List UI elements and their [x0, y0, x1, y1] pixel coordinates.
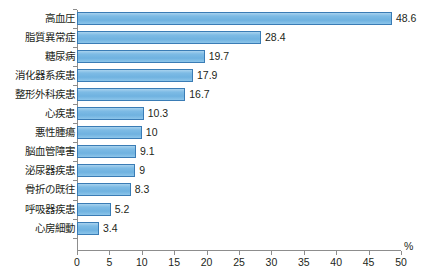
- bar-row: 呼吸器疾患5.2: [0, 200, 428, 219]
- y-axis-tick: [73, 66, 77, 67]
- bar-container: [77, 88, 185, 101]
- category-label: 整形外科疾患: [15, 85, 75, 104]
- y-axis-tick: [73, 238, 77, 239]
- category-label: 高血圧: [45, 9, 75, 28]
- bar-container: [77, 12, 392, 25]
- bar-value-label: 9: [135, 164, 145, 177]
- category-label: 心房細動: [35, 219, 75, 238]
- bar-row: 高血圧48.6: [0, 9, 428, 28]
- bar: [77, 203, 111, 216]
- y-axis-tick: [73, 200, 77, 201]
- x-axis-tick-label: 40: [330, 256, 342, 268]
- bar: [77, 50, 205, 63]
- bar-value-label: 10: [142, 126, 158, 139]
- bar-container: [77, 203, 111, 216]
- x-axis-tick: [369, 251, 370, 255]
- bar-container: [77, 164, 135, 177]
- x-axis-unit-label: %: [404, 240, 413, 252]
- bar-row: 泌尿器疾患9: [0, 161, 428, 180]
- x-axis-tick-label: 10: [136, 256, 148, 268]
- category-label: 消化器系疾患: [15, 66, 75, 85]
- horizontal-bar-chart: 高血圧48.6脂質異常症28.4糖尿病19.7消化器系疾患17.9整形外科疾患1…: [0, 0, 428, 277]
- bar-row: 整形外科疾患16.7: [0, 85, 428, 104]
- bar-row: 消化器系疾患17.9: [0, 66, 428, 85]
- x-axis-tick-label: 15: [168, 256, 180, 268]
- bar-value-label: 28.4: [261, 31, 285, 44]
- bar: [77, 107, 144, 120]
- bar-value-label: 5.2: [111, 203, 130, 216]
- y-axis-tick: [73, 104, 77, 105]
- bar-row: 脂質異常症28.4: [0, 28, 428, 47]
- category-label: 骨折の既往: [25, 180, 75, 199]
- category-label: 糖尿病: [45, 47, 75, 66]
- bar-value-label: 10.3: [144, 107, 168, 120]
- bar-container: [77, 126, 142, 139]
- x-axis-tick: [401, 251, 402, 255]
- category-label: 泌尿器疾患: [25, 161, 75, 180]
- bar: [77, 164, 135, 177]
- bar-value-label: 17.9: [193, 69, 217, 82]
- x-axis-tick: [271, 251, 272, 255]
- x-axis-tick: [109, 251, 110, 255]
- bar-container: [77, 69, 193, 82]
- x-axis-tick-label: 50: [395, 256, 407, 268]
- x-axis-tick-label: 25: [233, 256, 245, 268]
- x-axis-tick-label: 20: [201, 256, 213, 268]
- x-axis-tick-label: 30: [266, 256, 278, 268]
- category-label: 悪性腫瘍: [35, 123, 75, 142]
- x-axis-tick-label: 5: [106, 256, 112, 268]
- y-axis-tick: [73, 123, 77, 124]
- bar-value-label: 9.1: [136, 145, 155, 158]
- y-axis-tick: [73, 28, 77, 29]
- bar: [77, 222, 99, 235]
- x-axis-tick: [142, 251, 143, 255]
- category-label: 脳血管障害: [25, 142, 75, 161]
- category-label: 呼吸器疾患: [25, 200, 75, 219]
- bar-row: 悪性腫瘍10: [0, 123, 428, 142]
- x-axis-tick: [336, 251, 337, 255]
- x-axis-tick-label: 0: [74, 256, 80, 268]
- y-axis-tick: [73, 180, 77, 181]
- bar-value-label: 19.7: [205, 50, 229, 63]
- bar-container: [77, 31, 261, 44]
- bar: [77, 12, 392, 25]
- bar-container: [77, 183, 131, 196]
- bar-row: 心疾患10.3: [0, 104, 428, 123]
- bar: [77, 126, 142, 139]
- bar-row: 心房細動3.4: [0, 219, 428, 238]
- y-axis-tick: [73, 85, 77, 86]
- x-axis-tick: [77, 251, 78, 255]
- x-axis-tick-label: 35: [298, 256, 310, 268]
- x-axis-tick: [207, 251, 208, 255]
- x-axis-tick-label: 45: [363, 256, 375, 268]
- bar-row: 骨折の既往8.3: [0, 180, 428, 199]
- bar: [77, 183, 131, 196]
- bar-row: 脳血管障害9.1: [0, 142, 428, 161]
- bar: [77, 145, 136, 158]
- bar-container: [77, 145, 136, 158]
- bar: [77, 69, 193, 82]
- category-label: 心疾患: [45, 104, 75, 123]
- x-axis-tick: [304, 251, 305, 255]
- category-label: 脂質異常症: [25, 28, 75, 47]
- bar-value-label: 48.6: [392, 12, 416, 25]
- bar-row: 糖尿病19.7: [0, 47, 428, 66]
- x-axis-tick: [239, 251, 240, 255]
- bar-value-label: 8.3: [131, 183, 150, 196]
- y-axis-tick: [73, 9, 77, 10]
- x-axis-tick: [174, 251, 175, 255]
- y-axis-tick: [73, 219, 77, 220]
- bar-value-label: 3.4: [99, 222, 118, 235]
- bar-value-label: 16.7: [185, 88, 209, 101]
- bar: [77, 31, 261, 44]
- y-axis-tick: [73, 142, 77, 143]
- bar-container: [77, 50, 205, 63]
- bar-container: [77, 107, 144, 120]
- y-axis-tick: [73, 47, 77, 48]
- bar-container: [77, 222, 99, 235]
- y-axis-tick: [73, 161, 77, 162]
- bar: [77, 88, 185, 101]
